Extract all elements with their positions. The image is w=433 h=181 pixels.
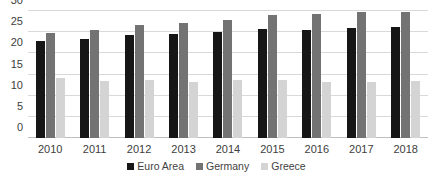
legend-item[interactable]: Greece <box>261 161 305 172</box>
bar[interactable] <box>90 30 99 138</box>
x-axis-tick-label: 2012 <box>117 141 161 157</box>
bar[interactable] <box>223 20 232 138</box>
y-axis-tick-label: 0 <box>17 122 23 133</box>
bar[interactable] <box>411 81 420 138</box>
bar[interactable] <box>233 80 242 138</box>
bar[interactable] <box>56 78 65 138</box>
y-axis-tick-label: 5 <box>17 100 23 111</box>
x-axis-tick-label: 2018 <box>384 141 428 157</box>
y-axis-tick-label: 15 <box>11 58 23 69</box>
bar[interactable] <box>36 41 45 138</box>
bar[interactable] <box>169 34 178 138</box>
y-axis-tick-label: 25 <box>11 16 23 27</box>
bar[interactable] <box>401 12 410 138</box>
bar[interactable] <box>322 82 331 138</box>
legend-label: Germany <box>206 161 249 172</box>
x-axis-tick-labels: 201020112012201320142015201620172018 <box>28 141 428 157</box>
plot-area: 051015202530 <box>28 11 428 138</box>
y-axis-tick-label: 20 <box>11 37 23 48</box>
bar-group <box>339 11 383 138</box>
bar[interactable] <box>179 23 188 138</box>
bar-group <box>384 11 428 138</box>
legend-item[interactable]: Germany <box>196 161 249 172</box>
legend-label: Euro Area <box>137 161 184 172</box>
bar-chart: 051015202530 201020112012201320142015201… <box>0 0 433 181</box>
bar-group <box>28 11 72 138</box>
legend-label: Greece <box>271 161 305 172</box>
bar[interactable] <box>100 81 109 138</box>
x-axis-tick-label: 2010 <box>28 141 72 157</box>
bar[interactable] <box>80 39 89 138</box>
bar-group <box>295 11 339 138</box>
x-axis-tick-label: 2013 <box>161 141 205 157</box>
bar[interactable] <box>46 33 55 138</box>
chart-legend: Euro AreaGermanyGreece <box>0 161 433 172</box>
legend-swatch-icon <box>127 163 134 170</box>
legend-swatch-icon <box>261 163 268 170</box>
bar-group <box>250 11 294 138</box>
bar[interactable] <box>302 30 311 138</box>
legend-swatch-icon <box>196 163 203 170</box>
bar[interactable] <box>357 12 366 138</box>
bar-group <box>206 11 250 138</box>
bar[interactable] <box>135 25 144 138</box>
bar-group <box>161 11 205 138</box>
legend-item[interactable]: Euro Area <box>127 161 184 172</box>
bar-groups <box>28 11 428 138</box>
bar[interactable] <box>145 80 154 138</box>
y-axis-tick-label: 10 <box>11 79 23 90</box>
bar[interactable] <box>391 27 400 138</box>
bar[interactable] <box>189 82 198 138</box>
bar[interactable] <box>213 32 222 138</box>
bar[interactable] <box>125 35 134 138</box>
bar[interactable] <box>268 15 277 138</box>
x-axis-tick-label: 2015 <box>250 141 294 157</box>
x-axis-tick-label: 2011 <box>72 141 116 157</box>
bar[interactable] <box>347 28 356 138</box>
bar-group <box>117 11 161 138</box>
x-axis-tick-label: 2014 <box>206 141 250 157</box>
bar[interactable] <box>367 82 376 138</box>
x-axis-tick-label: 2017 <box>339 141 383 157</box>
bar[interactable] <box>258 29 267 138</box>
bar[interactable] <box>312 14 321 138</box>
bar-group <box>72 11 116 138</box>
y-axis-tick-label: 30 <box>11 0 23 6</box>
x-axis-tick-label: 2016 <box>295 141 339 157</box>
bar[interactable] <box>278 80 287 138</box>
